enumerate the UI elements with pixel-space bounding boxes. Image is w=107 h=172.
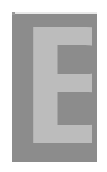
corner-marker xyxy=(12,12,15,15)
watermark-letter: B xyxy=(22,10,92,160)
